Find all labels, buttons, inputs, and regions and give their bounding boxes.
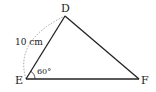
angle-e-label: 60° [37,67,51,76]
vertex-label-f: F [141,74,149,87]
vertex-label-e: E [15,74,23,87]
angle-e-arc [31,71,36,79]
side-de-length-label: 10 cm [15,37,43,47]
triangle-diagram: D E F 10 cm 60° [0,0,156,92]
side-df [65,16,139,79]
vertex-label-d: D [61,2,70,15]
